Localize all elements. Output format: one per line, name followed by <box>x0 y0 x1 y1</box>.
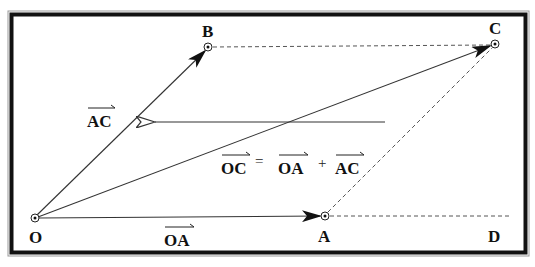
vector-ac-label: AC <box>87 112 112 131</box>
point-c-label: C <box>489 19 501 38</box>
point-o-marker <box>31 214 39 222</box>
point-b-label: B <box>202 22 213 41</box>
equation-term2: AC <box>335 159 360 178</box>
equation-plus: + <box>318 155 326 171</box>
vector-oa-label: OA <box>164 231 190 250</box>
diagram-frame <box>8 11 529 256</box>
point-o-label: O <box>29 228 42 247</box>
vector-diagram: O A B C D AC OA OC = OA + AC <box>0 0 535 267</box>
point-b-marker <box>204 43 212 51</box>
equation-term1: OA <box>278 159 304 178</box>
point-a-label: A <box>318 227 331 246</box>
point-d-label: D <box>488 227 500 246</box>
point-c-marker <box>491 40 499 48</box>
equation-lhs: OC <box>221 159 247 178</box>
point-a-marker <box>321 212 329 220</box>
equation-equals: = <box>255 153 263 169</box>
